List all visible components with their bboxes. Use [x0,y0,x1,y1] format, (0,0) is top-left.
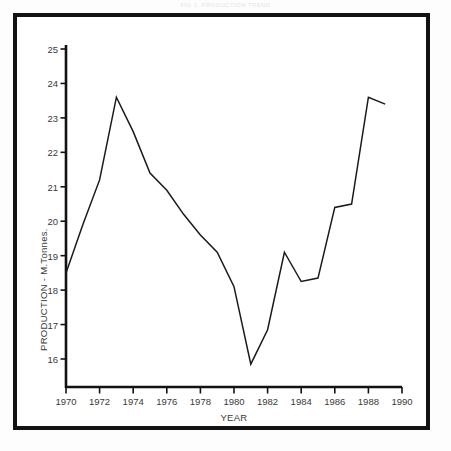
figure-caption: FIG 1. PRODUCTION TREND [0,0,451,11]
y-tick-label: 25 [36,44,58,55]
chart-frame-border [13,13,430,430]
x-tick-label: 1970 [55,396,76,407]
y-tick-label: 20 [36,216,58,227]
chart-page: FIG 1. PRODUCTION TREND 1617181920212223… [0,0,451,451]
y-axis-title: PRODUCTION - M.Tonnes. [38,228,49,351]
y-tick-label: 16 [36,354,58,365]
x-tick-label: 1988 [358,396,379,407]
y-tick-label: 24 [36,78,58,89]
x-tick-label: 1980 [223,396,244,407]
y-tick-label: 21 [36,181,58,192]
x-axis-title: YEAR [220,412,247,423]
y-tick-label: 22 [36,147,58,158]
x-tick-label: 1984 [291,396,312,407]
x-tick-label: 1982 [257,396,278,407]
x-tick-label: 1972 [89,396,110,407]
x-tick-label: 1978 [190,396,211,407]
x-tick-label: 1976 [156,396,177,407]
y-tick-label: 23 [36,112,58,123]
x-tick-label: 1986 [324,396,345,407]
x-tick-label: 1974 [123,396,144,407]
x-tick-label: 1990 [391,396,412,407]
